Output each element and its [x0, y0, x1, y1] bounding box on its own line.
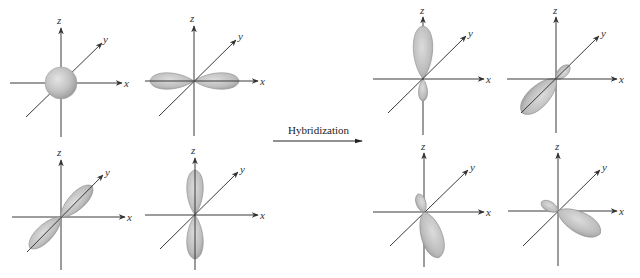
sp3-orbital-2-panel: z x y — [507, 4, 624, 133]
z-axis-label: z — [56, 14, 62, 26]
y-axis-label: y — [469, 161, 475, 173]
sp3-1-small-lobe — [419, 79, 428, 101]
y-axis-label: y — [600, 27, 606, 39]
s-orbital-panel: z x y — [10, 14, 129, 137]
sp3-orbital-4-panel: z x y — [508, 140, 624, 266]
x-axis-label: x — [618, 73, 624, 85]
z-axis-label: z — [420, 140, 426, 152]
y-axis-label: y — [467, 27, 473, 39]
y-axis-label: y — [601, 161, 607, 173]
x-axis-label: x — [123, 77, 129, 89]
x-axis-label: x — [485, 206, 491, 218]
y-axis-label: y — [104, 166, 110, 178]
hybridization-arrow: Hybridization — [273, 124, 362, 141]
y-axis-label: y — [237, 30, 243, 42]
z-axis-label: z — [554, 140, 560, 152]
z-axis-label: z — [56, 146, 62, 158]
x-axis-label: x — [259, 209, 265, 221]
hybridization-label: Hybridization — [288, 124, 350, 136]
orbital-hybridization-diagram: z x y z x y z x y z x y — [0, 0, 640, 278]
sp3-orbital-1-panel: z x y — [373, 4, 491, 135]
py-orbital-panel: z x y — [12, 146, 132, 270]
x-axis-label: x — [485, 73, 491, 85]
y-axis-label: y — [239, 163, 245, 175]
sp3-3-large-lobe — [414, 209, 449, 261]
s-orbital-sphere — [45, 67, 77, 99]
x-axis-label: x — [618, 205, 624, 217]
pz-orbital-panel: z x y — [145, 144, 265, 270]
x-axis-label: x — [259, 75, 265, 87]
z-axis-label: z — [419, 4, 425, 16]
z-axis-label: z — [189, 12, 195, 24]
z-axis-label: z — [190, 144, 196, 156]
z-axis-label: z — [552, 4, 558, 16]
px-orbital-panel: z x y — [145, 12, 265, 136]
sp3-4-large-lobe — [553, 202, 605, 243]
x-axis-label: x — [126, 211, 132, 223]
y-axis-label: y — [102, 33, 108, 45]
sp3-orbital-3-panel: z x y — [373, 140, 491, 267]
